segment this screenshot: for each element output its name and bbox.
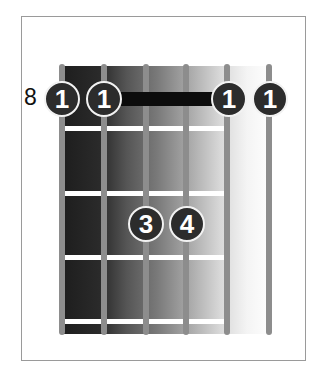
finger-dot-string-4: 4 <box>169 206 205 242</box>
finger-dot-string-3: 3 <box>128 206 164 242</box>
barre-bar <box>117 92 215 106</box>
finger-dot-string-6: 1 <box>252 81 288 117</box>
finger-dot-string-1: 1 <box>44 81 80 117</box>
finger-dot-string-2: 1 <box>86 81 122 117</box>
finger-dot-string-5: 1 <box>211 81 247 117</box>
start-fret-label: 8 <box>24 86 37 109</box>
